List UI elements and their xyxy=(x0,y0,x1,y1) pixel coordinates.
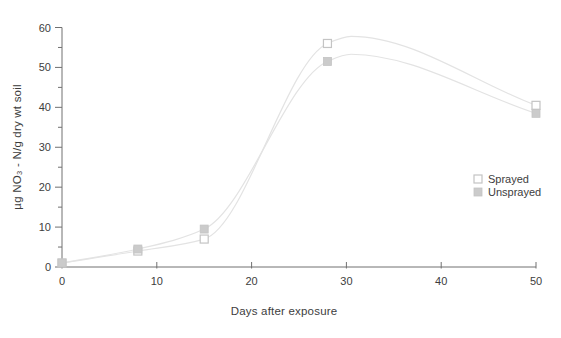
y-tick-label: 30 xyxy=(39,141,51,153)
unsprayed-marker xyxy=(532,109,540,117)
unsprayed-line xyxy=(62,54,536,263)
sprayed-marker xyxy=(200,235,208,243)
x-tick-label: 0 xyxy=(59,275,65,287)
x-tick-label: 40 xyxy=(435,275,447,287)
x-tick-label: 20 xyxy=(245,275,257,287)
legend-label-sprayed: Sprayed xyxy=(488,173,529,185)
y-tick-label: 0 xyxy=(45,261,51,273)
legend: Sprayed Unsprayed xyxy=(474,173,541,198)
x-axis-title: Days after exposure xyxy=(231,305,338,317)
x-tick-label: 30 xyxy=(340,275,352,287)
y-tick-label: 40 xyxy=(39,101,51,113)
unsprayed-marker xyxy=(134,245,142,253)
y-tick-label: 50 xyxy=(39,61,51,73)
chart-canvas: 010203040500102030405060 µg NO₃ - N/g dr… xyxy=(0,0,561,338)
legend-label-unsprayed: Unsprayed xyxy=(488,186,541,198)
curves-layer xyxy=(62,36,536,263)
x-tick-label: 10 xyxy=(151,275,163,287)
y-tick-label: 10 xyxy=(39,221,51,233)
legend-open-square-icon xyxy=(474,175,482,183)
legend-filled-square-icon xyxy=(474,188,482,196)
sprayed-marker xyxy=(323,39,331,47)
axes-layer: 010203040500102030405060 xyxy=(39,22,542,288)
unsprayed-marker xyxy=(323,57,331,65)
y-tick-label: 60 xyxy=(39,22,51,34)
unsprayed-marker xyxy=(58,259,66,267)
x-tick-label: 50 xyxy=(530,275,542,287)
y-tick-label: 20 xyxy=(39,181,51,193)
sprayed-marker xyxy=(532,101,540,109)
line-chart-figure: 010203040500102030405060 µg NO₃ - N/g dr… xyxy=(0,0,561,338)
unsprayed-marker xyxy=(200,225,208,233)
y-axis-title: µg NO₃ - N/g dry wt soil xyxy=(11,84,23,209)
sprayed-line xyxy=(62,36,536,263)
